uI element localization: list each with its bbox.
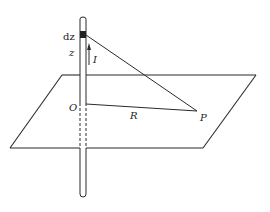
label-point: P <box>199 112 207 123</box>
dz-to-p-line <box>86 35 197 111</box>
current-arrow-icon <box>87 43 91 65</box>
label-current: I <box>92 54 98 65</box>
label-origin: O <box>69 102 77 113</box>
radius-line <box>86 104 197 111</box>
wire <box>80 17 86 197</box>
label-dz: dz <box>63 31 75 42</box>
label-distance: R <box>129 110 138 121</box>
label-z: z <box>68 47 75 58</box>
wire-field-diagram: dz z I O R P <box>0 0 270 212</box>
current-element-dz <box>80 31 86 38</box>
